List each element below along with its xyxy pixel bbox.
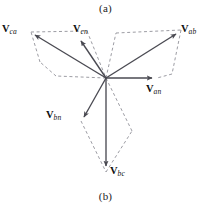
construction-line-bc-upper: [106, 78, 132, 131]
construction-line-ab-left: [106, 33, 116, 78]
label-vcn-subscript: cn: [81, 27, 88, 36]
label-vca: Vca: [2, 24, 17, 35]
label-van: Van: [146, 84, 162, 95]
label-van-subscript: an: [154, 87, 162, 96]
subfigure-caption-b: (b): [0, 190, 211, 202]
construction-line-ca-bottom-left: [40, 62, 56, 76]
phasor-vectors-group: [35, 34, 176, 166]
label-vab: Vab: [181, 24, 197, 35]
label-vbn: Vbn: [46, 110, 62, 121]
construction-line-ab-bottom: [157, 74, 172, 78]
phasor-vector-canvas: [0, 0, 211, 209]
construction-line-ab-right: [172, 30, 181, 74]
construction-line-ab-top: [116, 30, 181, 33]
phasor-diagram-figure: (a): [0, 0, 211, 209]
label-vcn: Vcn: [73, 24, 88, 35]
construction-line-bc-left: [81, 121, 106, 172]
vector-vab: [106, 34, 176, 78]
label-vbc-subscript: bc: [118, 169, 125, 178]
label-vbc: Vbc: [110, 166, 125, 177]
construction-line-ca-bottom-right: [56, 76, 106, 78]
label-vab-subscript: ab: [189, 27, 197, 36]
vector-vbn: [84, 78, 106, 117]
label-vca-subscript: ca: [10, 27, 17, 36]
vector-vca: [35, 35, 106, 78]
label-vbn-subscript: bn: [54, 113, 62, 122]
